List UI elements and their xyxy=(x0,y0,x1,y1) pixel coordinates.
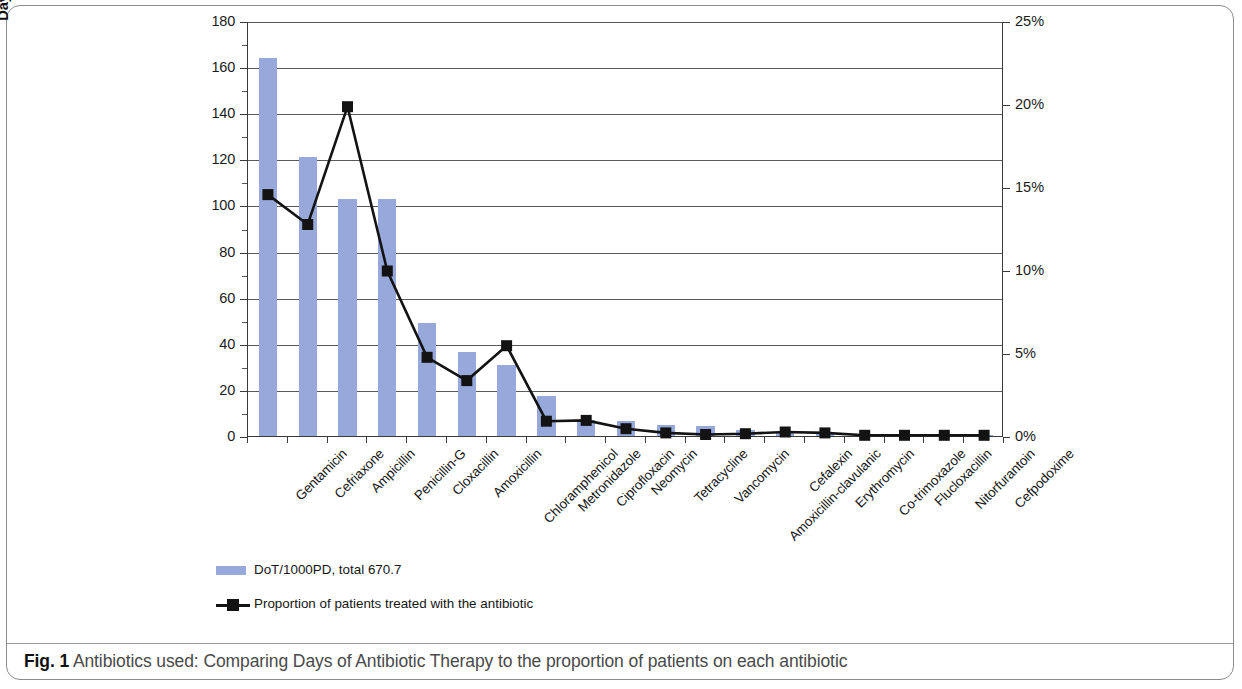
figure-container: Days of Antibiotic Therapy (DoT)/1000 Pa… xyxy=(0,0,1242,689)
line-marker xyxy=(422,352,433,363)
line-marker xyxy=(541,416,552,427)
x-tick-mark xyxy=(287,437,288,443)
line-marker xyxy=(740,428,751,439)
line-path xyxy=(268,107,984,436)
right-tick-mark xyxy=(1003,437,1010,438)
x-tick-mark xyxy=(804,437,805,443)
x-tick-mark xyxy=(884,437,885,443)
line-markers xyxy=(262,101,989,441)
x-tick-mark xyxy=(724,437,725,443)
line-marker xyxy=(382,266,393,277)
line-marker xyxy=(302,219,313,230)
legend-item-line: Proportion of patients treated with the … xyxy=(216,596,736,612)
x-tick-mark xyxy=(247,437,248,443)
x-tick-mark xyxy=(486,437,487,443)
left-tick-mark xyxy=(240,345,247,346)
left-tick-label: 160 xyxy=(179,59,235,75)
legend-line-swatch xyxy=(216,596,250,612)
left-tick-label: 140 xyxy=(179,105,235,121)
right-tick-label: 20% xyxy=(1015,96,1071,112)
x-tick-mark xyxy=(406,437,407,443)
line-marker xyxy=(859,430,870,441)
x-tick-mark xyxy=(923,437,924,443)
x-tick-mark xyxy=(645,437,646,443)
plot-area xyxy=(247,22,1003,437)
right-tick-label: 0% xyxy=(1015,428,1071,444)
right-tick-mark xyxy=(1003,354,1010,355)
right-tick-mark xyxy=(1003,105,1010,106)
line-marker xyxy=(700,429,711,440)
left-axis-title: Days of Antibiotic Therapy (DoT)/1000 Pa… xyxy=(0,0,11,40)
square-marker-icon xyxy=(227,599,239,611)
left-tick-label: 40 xyxy=(179,336,235,352)
bar-swatch-icon xyxy=(216,566,246,575)
line-marker xyxy=(342,101,353,112)
right-tick-mark xyxy=(1003,188,1010,189)
x-tick-mark xyxy=(446,437,447,443)
left-tick-mark xyxy=(240,22,247,23)
right-tick-label: 5% xyxy=(1015,345,1071,361)
left-tick-label: 60 xyxy=(179,290,235,306)
line-marker xyxy=(819,427,830,438)
line-marker xyxy=(780,427,791,438)
line-marker xyxy=(501,340,512,351)
legend-item-bar: DoT/1000PD, total 670.7 xyxy=(216,562,736,578)
line-marker xyxy=(461,375,472,386)
x-tick-mark xyxy=(526,437,527,443)
left-tick-label: 180 xyxy=(179,13,235,29)
chart-area: Days of Antibiotic Therapy (DoT)/1000 Pa… xyxy=(0,0,1242,560)
right-tick-label: 25% xyxy=(1015,13,1071,29)
caption-divider xyxy=(7,643,1233,644)
line-marker xyxy=(581,415,592,426)
left-tick-mark xyxy=(240,437,247,438)
x-tick-mark xyxy=(327,437,328,443)
legend-line-label: Proportion of patients treated with the … xyxy=(254,596,533,611)
left-tick-label: 0 xyxy=(179,428,235,444)
line-series xyxy=(248,22,1004,437)
right-tick-label: 10% xyxy=(1015,262,1071,278)
x-tick-mark xyxy=(844,437,845,443)
left-tick-mark xyxy=(240,206,247,207)
figure-caption: Fig. 1 Antibiotics used: Comparing Days … xyxy=(24,651,847,672)
line-marker xyxy=(899,430,910,441)
right-tick-label: 15% xyxy=(1015,179,1071,195)
x-tick-mark xyxy=(764,437,765,443)
x-tick-mark xyxy=(1003,437,1004,443)
left-tick-mark xyxy=(240,68,247,69)
legend-bar-label: DoT/1000PD, total 670.7 xyxy=(254,562,401,577)
left-tick-label: 20 xyxy=(179,382,235,398)
legend-bar-swatch xyxy=(216,562,250,578)
left-tick-mark xyxy=(240,114,247,115)
caption-text: Antibiotics used: Comparing Days of Anti… xyxy=(73,651,847,671)
line-marker xyxy=(660,427,671,438)
chart-legend: DoT/1000PD, total 670.7 Proportion of pa… xyxy=(216,562,736,630)
right-tick-mark xyxy=(1003,271,1010,272)
x-tick-mark xyxy=(565,437,566,443)
x-tick-mark xyxy=(605,437,606,443)
left-tick-label: 120 xyxy=(179,151,235,167)
left-tick-label: 80 xyxy=(179,244,235,260)
left-tick-mark xyxy=(240,391,247,392)
line-marker xyxy=(621,423,632,434)
x-tick-mark xyxy=(366,437,367,443)
line-marker xyxy=(939,430,950,441)
left-tick-mark xyxy=(240,299,247,300)
caption-label: Fig. 1 xyxy=(24,651,69,671)
line-marker xyxy=(979,430,990,441)
left-tick-mark xyxy=(240,253,247,254)
x-tick-mark xyxy=(963,437,964,443)
left-tick-mark xyxy=(240,160,247,161)
x-tick-mark xyxy=(685,437,686,443)
line-marker xyxy=(262,189,273,200)
right-tick-mark xyxy=(1003,22,1010,23)
left-tick-label: 100 xyxy=(179,197,235,213)
